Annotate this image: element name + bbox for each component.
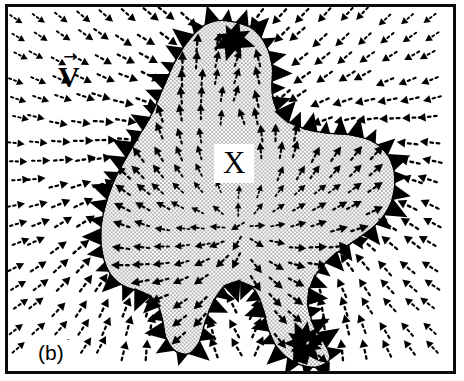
figure-panel-b: →V X (b) xyxy=(0,0,464,381)
region-label: X xyxy=(214,144,254,183)
velocity-field-label: →V xyxy=(58,51,80,92)
panel-label: (b) xyxy=(33,340,69,365)
figure-frame: →V X (b) xyxy=(5,4,456,374)
velocity-field-letter: V xyxy=(58,60,80,93)
